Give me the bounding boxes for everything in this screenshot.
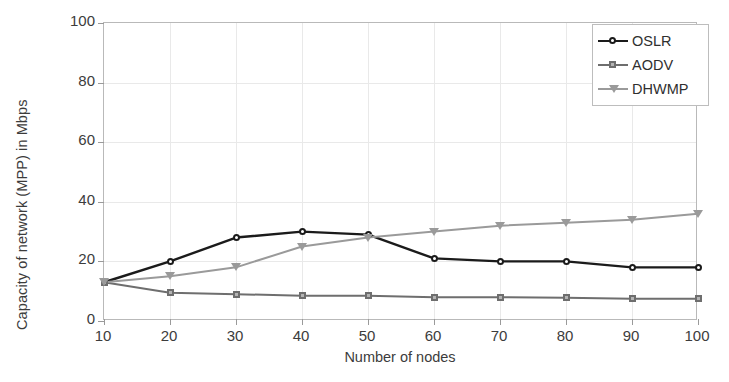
square-marker-icon [609, 61, 616, 68]
chart-figure: Capacity of network (MPP) in Mbps 020406… [0, 0, 729, 382]
data-point-aodv [233, 291, 240, 298]
data-point-dhwmp [231, 263, 241, 271]
x-axis-tick-label: 10 [78, 327, 128, 344]
y-axis-tick-label: 20 [49, 250, 95, 267]
x-axis-tick-label: 70 [474, 327, 524, 344]
legend-label-oslr: OSLR [632, 34, 672, 48]
data-point-oslr [629, 264, 636, 271]
data-point-dhwmp [561, 219, 571, 227]
data-point-dhwmp [429, 228, 439, 236]
data-point-oslr [497, 258, 504, 265]
y-axis-tick-label: 60 [49, 131, 95, 148]
data-point-aodv [695, 295, 702, 302]
data-point-aodv [629, 295, 636, 302]
data-point-dhwmp [693, 210, 703, 218]
x-axis-tick [698, 319, 699, 325]
data-point-aodv [167, 289, 174, 296]
x-axis-tick-label: 30 [210, 327, 260, 344]
legend-label-aodv: AODV [632, 58, 673, 72]
legend-item-dhwmp[interactable]: DHWMP [598, 77, 704, 101]
y-axis-tick-label: 80 [49, 72, 95, 89]
y-axis-tick-label: 100 [49, 12, 95, 29]
data-point-oslr [563, 258, 570, 265]
y-axis-tick-label: 40 [49, 191, 95, 208]
data-point-dhwmp [297, 243, 307, 251]
data-point-oslr [299, 228, 306, 235]
x-axis-title: Number of nodes [103, 349, 697, 365]
x-axis-tick-label: 80 [540, 327, 590, 344]
data-point-aodv [563, 294, 570, 301]
data-point-oslr [695, 264, 702, 271]
legend-label-dhwmp: DHWMP [632, 82, 688, 96]
data-point-oslr [167, 258, 174, 265]
data-point-dhwmp [99, 278, 109, 286]
data-point-dhwmp [165, 272, 175, 280]
legend-item-aodv[interactable]: AODV [598, 53, 704, 77]
data-point-dhwmp [363, 234, 373, 242]
x-axis-tick-label: 90 [606, 327, 656, 344]
data-point-dhwmp [627, 216, 637, 224]
x-axis-tick-label: 100 [672, 327, 722, 344]
x-axis-tick-label: 40 [276, 327, 326, 344]
data-point-aodv [431, 294, 438, 301]
data-point-aodv [365, 292, 372, 299]
data-point-dhwmp [495, 222, 505, 230]
legend-swatch-dhwmp [598, 82, 628, 96]
triangle-down-marker-icon [609, 85, 619, 93]
x-axis-tick-label: 20 [144, 327, 194, 344]
y-axis-title: Capacity of network (MPP) in Mbps [14, 0, 40, 330]
legend-swatch-aodv [598, 58, 628, 72]
legend-swatch-oslr [598, 34, 628, 48]
data-point-aodv [497, 294, 504, 301]
data-point-oslr [233, 234, 240, 241]
x-axis-tick-label: 50 [342, 327, 392, 344]
x-axis-tick-label: 60 [408, 327, 458, 344]
circle-marker-icon [609, 37, 616, 44]
y-axis-tick-label: 0 [49, 310, 95, 327]
legend-item-oslr[interactable]: OSLR [598, 29, 704, 53]
data-point-aodv [299, 292, 306, 299]
data-point-oslr [431, 255, 438, 262]
legend: OSLR AODV DHWMP [592, 24, 709, 106]
